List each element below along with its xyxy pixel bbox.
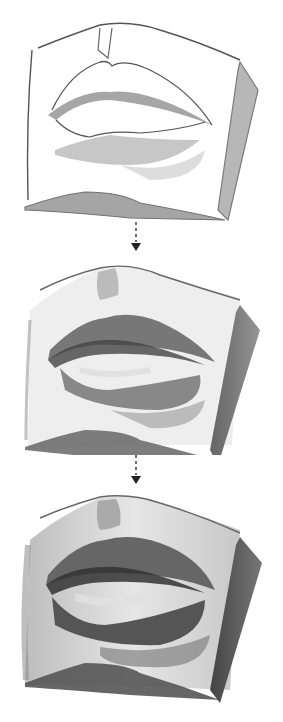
mouth-cast-drawing-midtone-stage — [0, 250, 283, 455]
mouth-cast-drawing-finished-stage — [0, 485, 283, 722]
sketch-stage-3: Stage 3 - finished rendering — [0, 485, 283, 722]
down-arrow-icon — [131, 222, 141, 252]
progress-arrow-2 — [131, 455, 141, 485]
mouth-cast-drawing-line-stage — [0, 0, 283, 225]
sketch-stage-1: Stage 1 - line construction — [0, 0, 283, 225]
sketch-stage-2: Stage 2 - mid-tone shading — [0, 250, 283, 455]
progress-arrow-1 — [131, 222, 141, 252]
down-arrow-icon — [131, 455, 141, 485]
